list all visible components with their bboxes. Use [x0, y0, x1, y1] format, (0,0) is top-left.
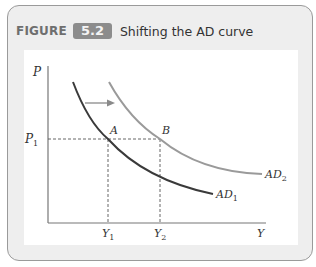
arrow-head-icon — [107, 100, 115, 107]
ad-shift-diagram: P P1 A B AD2 AD1 Y1 Y2 Y — [0, 0, 316, 267]
point-b-label: B — [161, 124, 170, 137]
y1-label: Y1 — [102, 227, 114, 242]
x-axis-label: Y — [257, 227, 266, 240]
ad2-label: AD2 — [264, 168, 287, 183]
y2-label: Y2 — [154, 227, 166, 242]
ad1-label: AD1 — [215, 188, 238, 203]
y-axis-label: P — [32, 65, 42, 79]
point-a-label: A — [109, 124, 118, 137]
p1-label: P1 — [24, 132, 38, 148]
ad1-curve — [73, 82, 213, 194]
